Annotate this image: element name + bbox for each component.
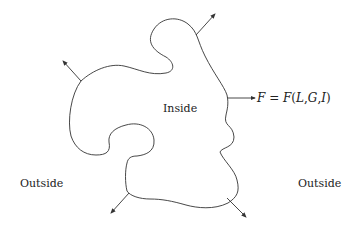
normal-arrow-top-right — [196, 14, 215, 35]
region-boundary — [69, 19, 238, 208]
flux-equation: F = F(L,G,I) — [256, 91, 331, 105]
boundary-diagram: Inside Outside Outside F = F(L,G,I) — [0, 0, 352, 235]
normal-arrow-upper-left — [63, 61, 81, 81]
normal-arrow-bottom-left — [111, 193, 129, 213]
inside-label: Inside — [163, 102, 197, 115]
outside-right-label: Outside — [298, 177, 341, 190]
outside-left-label: Outside — [20, 177, 63, 190]
normal-arrow-bottom-right — [227, 198, 246, 217]
